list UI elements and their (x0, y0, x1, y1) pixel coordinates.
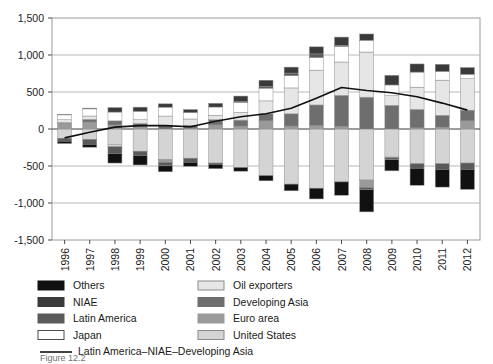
bar-segment (360, 180, 374, 187)
x-tick-label: 2002 (210, 248, 222, 272)
bar-segment (158, 116, 172, 126)
legend-label: Euro area (233, 312, 279, 324)
bar-segment (108, 153, 122, 163)
bar-group (435, 64, 449, 187)
legend-item-right-1[interactable]: Developing Asia (198, 296, 308, 308)
legend-swatch (198, 281, 224, 290)
bar-segment (460, 163, 474, 169)
x-tick-label: 2005 (285, 248, 297, 272)
bar-segment (83, 122, 97, 129)
bar-segment (234, 129, 248, 167)
bar-group (83, 108, 97, 147)
bar-segment (460, 169, 474, 189)
legend-item-left-2[interactable]: Latin America (38, 312, 137, 324)
bar-segment (435, 115, 449, 127)
bar-segment (158, 162, 172, 166)
bar-segment (284, 129, 298, 184)
bar-group (209, 103, 223, 168)
x-tick-label: 2012 (461, 248, 473, 272)
bar-group (360, 34, 374, 212)
bar-segment (410, 64, 424, 72)
bar-segment (460, 110, 474, 121)
bar-segment (385, 75, 399, 85)
bar-segment (158, 104, 172, 107)
x-tick-label: 2000 (159, 248, 171, 272)
bar-segment (460, 121, 474, 129)
bar-segment (108, 147, 122, 154)
bar-segment (385, 158, 399, 160)
bar-segment (183, 158, 197, 162)
bar-segment (108, 112, 122, 121)
bar-segment (435, 71, 449, 80)
x-tick-label: 2007 (336, 248, 348, 272)
bar-segment (460, 74, 474, 78)
bar-segment (209, 125, 223, 129)
bar-segment (259, 129, 273, 176)
bar-segment (309, 126, 323, 129)
bar-segment (83, 108, 97, 109)
bar-segment (335, 182, 349, 195)
bar-group (335, 37, 349, 195)
legend-item-right-3[interactable]: United States (198, 329, 296, 341)
bar-segment (284, 126, 298, 129)
bar-segment (410, 72, 424, 87)
bar-segment (435, 80, 449, 115)
legend-swatch (38, 298, 64, 307)
bar-segment (410, 129, 424, 164)
bar-segment (209, 129, 223, 163)
bar-segment (385, 160, 399, 171)
chart-figure: -1,500-1,000-50005001,0001,5001996199719… (0, 0, 493, 364)
legend-item-left-0[interactable]: Others (38, 279, 105, 291)
bar-segment (335, 37, 349, 45)
bar-segment (284, 67, 298, 73)
legend-item-left-1[interactable]: NIAE (38, 296, 98, 308)
current-account-balances-stacked-bar-chart: -1,500-1,000-50005001,0001,5001996199719… (0, 0, 493, 364)
x-tick-label: 2006 (310, 248, 322, 272)
bar-segment (108, 145, 122, 147)
bar-segment (259, 176, 273, 181)
y-tick-label: -500 (23, 160, 44, 172)
bar-segment (335, 126, 349, 129)
bar-segment (133, 120, 147, 124)
bar-segment (309, 58, 323, 71)
bar-segment (58, 123, 72, 129)
legend-swatch (38, 281, 64, 290)
bar-segment (360, 40, 374, 52)
bar-segment (158, 160, 172, 163)
bar-segment (133, 155, 147, 165)
bar-group (385, 75, 399, 170)
legend-label: Oil exporters (233, 279, 293, 291)
x-tick-label: 2008 (361, 248, 373, 272)
y-tick-label: -1,000 (14, 197, 44, 209)
bar-segment (259, 101, 273, 114)
bar-group (460, 68, 474, 190)
legend-label: United States (233, 329, 296, 341)
bar-segment (360, 190, 374, 212)
legend-item-right-0[interactable]: Oil exporters (198, 279, 293, 291)
x-tick-label: 2011 (436, 248, 448, 271)
bar-segment (133, 107, 147, 111)
bar-segment (385, 96, 399, 106)
x-tick-label: 1997 (84, 248, 96, 272)
bar-segment (108, 129, 122, 145)
bar-segment (83, 119, 97, 122)
legend-swatch (198, 298, 224, 307)
bar-segment (284, 184, 298, 191)
bar-segment (309, 54, 323, 58)
legend-item-right-2[interactable]: Euro area (198, 312, 279, 324)
legend-label: Others (73, 279, 105, 291)
bar-segment (133, 111, 147, 120)
legend-item-left-3[interactable]: Japan (38, 329, 102, 341)
bar-group (183, 110, 197, 167)
bar-segment (309, 129, 323, 188)
y-tick-label: 0 (38, 123, 44, 135)
bar-group (234, 96, 248, 171)
bar-segment (435, 169, 449, 187)
bar-segment (234, 167, 248, 171)
bar-segment (158, 129, 172, 160)
bar-segment (158, 107, 172, 116)
bar-segment (309, 188, 323, 199)
bar-segment (209, 107, 223, 115)
y-tick-label: -1,500 (14, 234, 44, 246)
bar-segment (309, 47, 323, 54)
